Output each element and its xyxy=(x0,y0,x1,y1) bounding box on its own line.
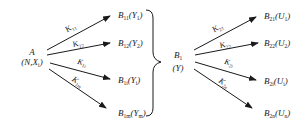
node-b1m: B1m(Ym) xyxy=(118,108,146,121)
node-a: A (N,Xi) xyxy=(15,47,49,70)
node-b11: B11(Y1) xyxy=(118,10,143,23)
node-b22: B22(U2) xyxy=(264,38,290,51)
edge-label-k22: K22 xyxy=(219,39,232,53)
node-b1: B1 (Y) xyxy=(166,50,190,73)
node-b1-name: B1 xyxy=(166,50,190,63)
node-a-params: (N,Xi) xyxy=(15,57,49,70)
node-b1i: B1i(Yi) xyxy=(118,75,140,88)
node-b12: B12(Y2) xyxy=(118,38,143,51)
node-b2n: B2n(Un) xyxy=(264,108,290,121)
edge-label-k12: K12 xyxy=(72,38,85,52)
node-b21: B21(U1) xyxy=(264,11,290,24)
node-b1-params: (Y) xyxy=(166,63,190,73)
right-brace-icon xyxy=(146,10,161,116)
node-b2i: B2i(Ui) xyxy=(264,76,288,89)
node-a-name: A xyxy=(15,47,49,57)
